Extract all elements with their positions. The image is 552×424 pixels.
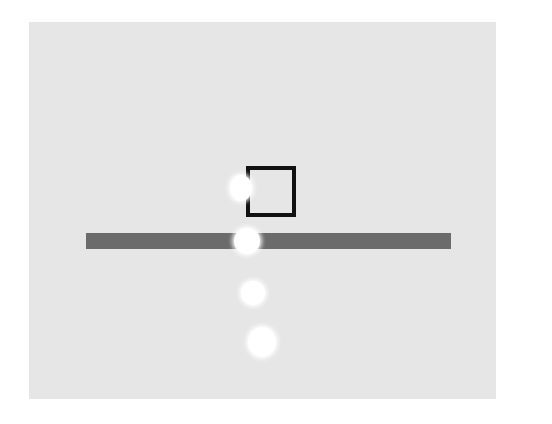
- light-blob: [230, 175, 252, 201]
- light-blob: [248, 327, 276, 357]
- square-outline: [246, 166, 296, 217]
- horizontal-bar: [86, 233, 451, 249]
- light-blob: [241, 281, 265, 305]
- light-blob: [234, 228, 260, 254]
